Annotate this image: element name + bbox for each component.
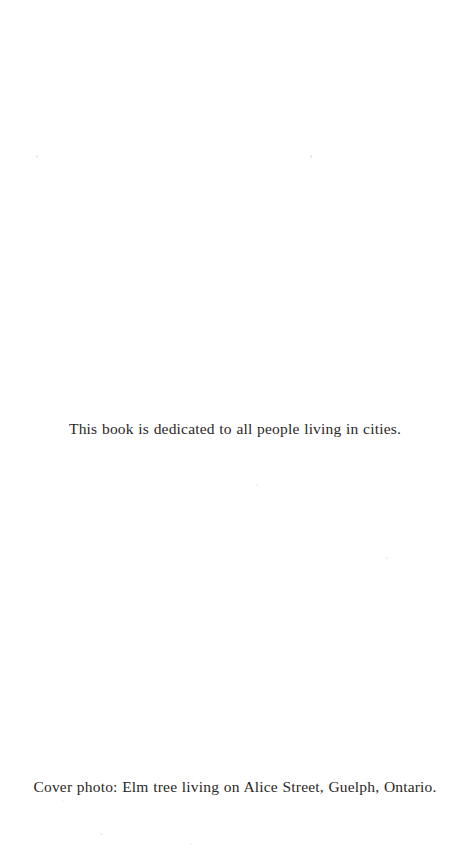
dedication-text: This book is dedicated to all people liv… (0, 419, 470, 440)
scan-speck (100, 833, 103, 835)
scan-speck (386, 557, 388, 559)
book-page: This book is dedicated to all people liv… (0, 0, 470, 865)
scan-speck (190, 843, 192, 845)
scan-speck (62, 800, 64, 802)
scan-speck (256, 484, 258, 486)
cover-photo-credit: Cover photo: Elm tree living on Alice St… (0, 777, 470, 798)
scan-speck (36, 155, 38, 158)
scan-speck (310, 155, 312, 158)
